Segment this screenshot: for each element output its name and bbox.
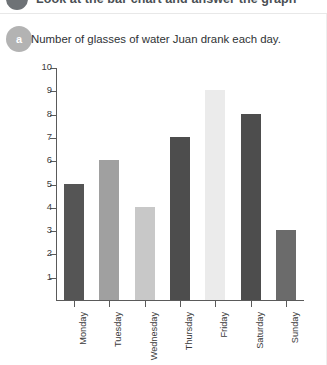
y-axis-tick-label: 3 — [47, 224, 52, 235]
y-axis-tick-label: 1 — [47, 271, 52, 282]
screen-root: Look at the bar chart and answer the gra… — [0, 0, 327, 365]
x-axis-label-sunday: Sunday — [290, 312, 300, 343]
bar-monday — [64, 184, 84, 301]
x-axis-tick — [215, 301, 216, 307]
bar-saturday — [241, 114, 261, 300]
y-axis-tick-label: 8 — [47, 108, 52, 119]
bar-friday — [205, 90, 225, 300]
bar-thursday — [170, 137, 190, 300]
y-axis-tick-label: 10 — [41, 61, 52, 72]
y-axis-tick-label: 9 — [47, 84, 52, 95]
bar-wednesday — [135, 207, 155, 300]
bar-tuesday — [99, 160, 119, 300]
y-axis-tick-label: 6 — [47, 154, 52, 165]
numbered-circle-icon — [6, 0, 28, 10]
x-axis-tick — [286, 301, 287, 307]
bar-series — [56, 68, 304, 301]
x-axis-label-wednesday: Wednesday — [149, 312, 159, 360]
x-axis-label-monday: Monday — [78, 312, 88, 345]
x-axis-tick — [109, 301, 110, 307]
question-card: a Number of glasses of water Juan drank … — [0, 14, 327, 365]
x-axis-label-tuesday: Tuesday — [113, 312, 123, 347]
bar-sunday — [276, 230, 296, 300]
question-badge: a — [6, 26, 32, 52]
bar-chart: 12345678910MondayTuesdayWednesdayThursda… — [0, 62, 327, 365]
page-header: Look at the bar chart and answer the gra… — [0, 0, 327, 12]
y-axis-tick-label: 4 — [47, 201, 52, 212]
chart-plot-area: 12345678910MondayTuesdayWednesdayThursda… — [56, 68, 304, 301]
y-axis-tick-label: 5 — [47, 178, 52, 189]
y-axis-tick-label: 2 — [47, 247, 52, 258]
x-axis-label-friday: Friday — [219, 312, 229, 338]
x-axis-tick — [74, 301, 75, 307]
y-axis-tick-label: 7 — [47, 131, 52, 142]
x-axis-tick — [251, 301, 252, 307]
x-axis-tick — [145, 301, 146, 307]
question-text: Number of glasses of water Juan drank ea… — [31, 33, 321, 45]
x-axis-label-saturday: Saturday — [255, 312, 265, 349]
x-axis-label-thursday: Thursday — [184, 312, 194, 350]
header-title: Look at the bar chart and answer the gra… — [36, 0, 297, 6]
x-axis-tick — [180, 301, 181, 307]
